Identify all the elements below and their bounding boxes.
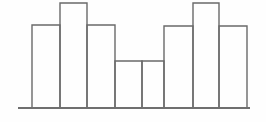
bar-chart-canvas [0, 0, 266, 122]
chart-figure [0, 0, 266, 122]
